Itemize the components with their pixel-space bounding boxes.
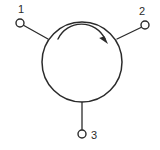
terminal-dot-port-1 xyxy=(16,19,24,27)
port-label-3: 3 xyxy=(91,129,97,141)
symbol-canvas: 1 2 3 xyxy=(0,0,160,150)
terminal-dot-port-2 xyxy=(141,21,149,29)
lead-line-port-2 xyxy=(117,27,142,39)
terminal-dot-port-3 xyxy=(78,130,86,138)
body-circle xyxy=(42,22,122,102)
lead-line-port-1 xyxy=(23,25,48,39)
port-label-1: 1 xyxy=(18,3,24,15)
circulator-symbol-diagram: 1 2 3 xyxy=(0,0,160,150)
port-label-2: 2 xyxy=(139,5,145,17)
